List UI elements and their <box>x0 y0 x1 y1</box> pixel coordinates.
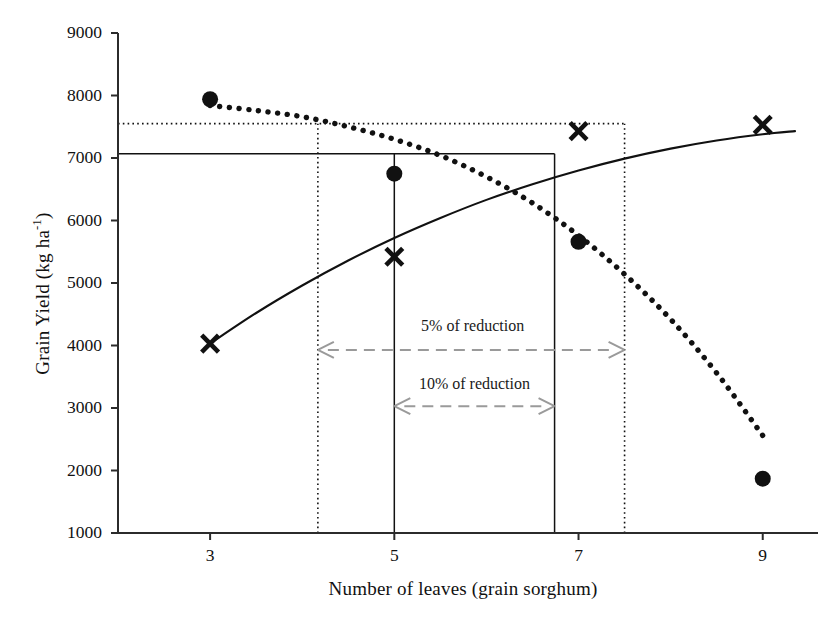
data-point-circle <box>755 471 771 487</box>
data-point-circle <box>571 234 587 250</box>
fit-curve-filled-circle-series <box>210 106 763 436</box>
data-point-circle <box>386 166 402 182</box>
annotation-arrowhead-right-reduction-5-percent <box>609 342 625 358</box>
data-point-circle <box>202 91 218 107</box>
fit-curve-cross-series <box>210 131 795 344</box>
plot-area <box>0 0 838 622</box>
chart-figure: Grain Yield (kg ha-1) Number of leaves (… <box>0 0 838 622</box>
